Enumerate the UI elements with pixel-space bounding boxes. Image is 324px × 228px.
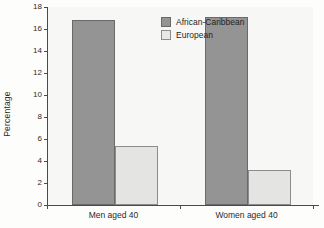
y-tick-label: 4 bbox=[20, 157, 42, 165]
bar-european-men-aged-40 bbox=[115, 146, 158, 205]
y-tick-label: 8 bbox=[20, 113, 42, 121]
x-group-label: Men aged 40 bbox=[47, 210, 180, 220]
y-tick-label: 6 bbox=[20, 135, 42, 143]
x-tick-mark bbox=[47, 205, 48, 209]
x-tick-mark bbox=[313, 205, 314, 209]
x-tick-mark bbox=[180, 205, 181, 209]
y-tick-label: 12 bbox=[20, 69, 42, 77]
bar-african-caribbean-women-aged-40 bbox=[205, 17, 248, 205]
x-axis-line bbox=[47, 205, 319, 206]
legend-swatch-icon bbox=[161, 17, 171, 27]
legend-swatch-icon bbox=[161, 30, 171, 40]
x-group-label: Women aged 40 bbox=[180, 210, 313, 220]
bar-chart-figure: Percentage 024681012141618 African-Carib… bbox=[0, 0, 324, 228]
legend-label: African-Caribbean bbox=[176, 17, 245, 27]
y-tick-label: 18 bbox=[20, 3, 42, 11]
bar-european-women-aged-40 bbox=[248, 170, 291, 205]
legend-label: European bbox=[176, 30, 213, 40]
y-tick-label: 16 bbox=[20, 25, 42, 33]
y-tick-label: 0 bbox=[20, 201, 42, 209]
legend-item: European bbox=[161, 29, 245, 40]
plot-area: African-CaribbeanEuropean bbox=[47, 7, 313, 205]
y-tick-label: 14 bbox=[20, 47, 42, 55]
y-tick-label: 2 bbox=[20, 179, 42, 187]
bar-african-caribbean-men-aged-40 bbox=[72, 20, 115, 205]
y-tick-label: 10 bbox=[20, 91, 42, 99]
legend-item: African-Caribbean bbox=[161, 16, 245, 27]
chart-legend: African-CaribbeanEuropean bbox=[161, 16, 245, 40]
